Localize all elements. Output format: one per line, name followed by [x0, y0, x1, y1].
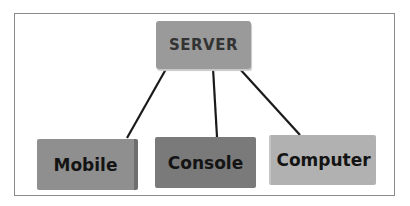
server-label: SERVER	[169, 36, 238, 54]
server-node: SERVER	[156, 21, 251, 69]
edge-server-computer	[239, 68, 300, 135]
mobile-node: Mobile	[37, 139, 138, 190]
mobile-label: Mobile	[54, 155, 118, 175]
console-label: Console	[168, 153, 243, 173]
edge-server-console	[213, 68, 217, 137]
console-node: Console	[155, 137, 256, 188]
computer-label: Computer	[276, 150, 370, 170]
computer-node: Computer	[269, 135, 376, 185]
edge-server-mobile	[127, 69, 166, 138]
